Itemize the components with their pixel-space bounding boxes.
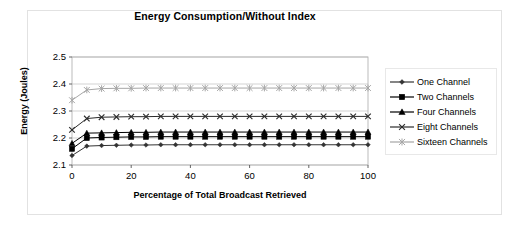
data-point-marker-square	[232, 134, 237, 139]
y-axis-tick-label: 2.1	[28, 159, 66, 170]
data-point-marker-square	[99, 135, 104, 140]
data-point-marker-square	[173, 134, 178, 139]
data-point-marker-diamond	[159, 142, 164, 147]
data-point-marker-diamond	[247, 142, 252, 147]
series-one-channel	[70, 142, 371, 157]
data-point-marker-square	[321, 134, 326, 139]
data-point-marker-diamond	[188, 142, 193, 147]
data-point-marker-square	[306, 134, 311, 139]
data-point-marker-diamond	[366, 142, 371, 147]
legend-label: Eight Channels	[415, 122, 478, 132]
data-point-marker-diamond	[218, 142, 223, 147]
chart-container: Energy Consumption/Without Index Energy …	[0, 0, 527, 225]
data-point-marker-diamond	[262, 142, 267, 147]
data-point-marker-square	[129, 134, 134, 139]
data-point-marker-diamond	[144, 143, 149, 148]
data-point-marker-diamond	[114, 143, 119, 148]
data-point-marker-square	[399, 94, 404, 99]
data-point-marker-diamond	[203, 142, 208, 147]
data-point-marker-square	[188, 134, 193, 139]
x-axis-tick-label: 80	[289, 170, 329, 181]
data-point-marker-square	[247, 134, 252, 139]
data-point-marker-asterisk	[69, 97, 75, 104]
legend-item-sixteen-channels[interactable]: Sixteen Channels	[389, 134, 493, 149]
x-axis-tick-label: 100	[348, 170, 388, 181]
x-axis-tick-label: 60	[230, 170, 270, 181]
data-point-marker-diamond	[307, 142, 312, 147]
data-point-marker-diamond	[351, 142, 356, 147]
x-axis-tick-label: 40	[170, 170, 210, 181]
data-point-marker-diamond	[400, 79, 405, 84]
series-line	[72, 116, 368, 129]
y-axis-tick-label: 2.4	[28, 78, 66, 89]
x-axis-tick-label: 0	[52, 170, 92, 181]
data-point-marker-diamond	[321, 142, 326, 147]
y-axis-tick-label: 2.5	[28, 51, 66, 62]
legend-item-two-channels[interactable]: Two Channels	[389, 89, 493, 104]
legend-item-one-channel[interactable]: One Channel	[389, 74, 493, 89]
legend-marker-asterisk-icon	[389, 135, 415, 149]
data-point-marker-square	[336, 134, 341, 139]
data-point-marker-diamond	[277, 142, 282, 147]
legend-marker-cross-icon	[389, 120, 415, 134]
legend-label: Sixteen Channels	[415, 137, 488, 147]
legend-marker-triangle-icon	[389, 105, 415, 119]
data-point-marker-square	[114, 135, 119, 140]
data-point-marker-square	[277, 134, 282, 139]
data-point-marker-square	[262, 134, 267, 139]
legend-marker-square-icon	[389, 90, 415, 104]
y-axis-tick-label: 2.3	[28, 105, 66, 116]
data-point-marker-square	[203, 134, 208, 139]
data-point-marker-square	[158, 134, 163, 139]
data-point-marker-square	[365, 134, 370, 139]
data-point-marker-square	[291, 134, 296, 139]
legend-item-eight-channels[interactable]: Eight Channels	[389, 119, 493, 134]
legend-label: Two Channels	[415, 92, 474, 102]
data-point-marker-diamond	[99, 143, 104, 148]
data-point-marker-diamond	[173, 142, 178, 147]
legend-label: One Channel	[415, 77, 470, 87]
data-point-marker-diamond	[233, 142, 238, 147]
data-point-marker-square	[69, 146, 74, 151]
data-point-marker-square	[143, 134, 148, 139]
data-point-marker-triangle	[69, 140, 75, 145]
legend-label: Four Channels	[415, 107, 476, 117]
data-point-marker-diamond	[336, 142, 341, 147]
data-point-marker-diamond	[292, 142, 297, 147]
x-axis-tick-label: 20	[111, 170, 151, 181]
data-point-marker-square	[84, 135, 89, 140]
data-point-marker-diamond	[129, 143, 134, 148]
chart-legend: One ChannelTwo ChannelsFour ChannelsEigh…	[385, 68, 497, 155]
data-point-marker-square	[351, 134, 356, 139]
legend-item-four-channels[interactable]: Four Channels	[389, 104, 493, 119]
data-point-marker-square	[217, 134, 222, 139]
legend-marker-diamond-icon	[389, 75, 415, 89]
y-axis-tick-label: 2.2	[28, 132, 66, 143]
series-sixteen-channels	[69, 85, 371, 104]
